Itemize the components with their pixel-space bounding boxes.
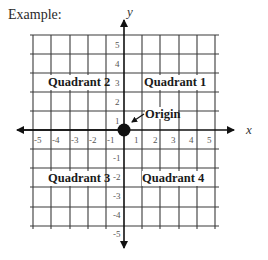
coordinate-plane: x y -5 -4 -3 -2 -1 1 2 3 4 5 5 4 3 2 1 -… [0, 0, 268, 260]
y-axis-label: y [125, 4, 133, 19]
y-tick: -4 [113, 210, 121, 220]
quadrant-4-label: Quadrant 4 [142, 171, 205, 185]
x-tick: 1 [134, 135, 139, 145]
x-tick: 4 [189, 135, 194, 145]
quadrant-3-label: Quadrant 3 [48, 171, 110, 185]
quadrant-2-label: Quadrant 2 [48, 75, 110, 89]
y-tick: -3 [113, 191, 121, 201]
y-tick: 3 [115, 78, 120, 88]
x-tick: -5 [34, 135, 42, 145]
y-tick: 4 [115, 59, 120, 69]
y-tick: 2 [115, 97, 120, 107]
quadrant-1-label: Quadrant 1 [144, 75, 206, 89]
origin-dot [118, 124, 131, 137]
x-tick: -2 [89, 135, 97, 145]
y-tick: 5 [115, 40, 120, 50]
x-tick: -1 [107, 135, 115, 145]
x-tick: 2 [153, 135, 158, 145]
x-axis-label: x [245, 122, 252, 137]
x-tick: -3 [71, 135, 79, 145]
y-tick: -2 [113, 172, 121, 182]
x-tick: -4 [52, 135, 60, 145]
y-tick: -5 [113, 229, 121, 239]
y-tick: -1 [113, 153, 121, 163]
y-tick: 1 [115, 116, 120, 126]
x-tick: 5 [207, 135, 212, 145]
x-tick-labels: -5 -4 -3 -2 -1 1 2 3 4 5 [34, 135, 212, 145]
origin-label: Origin [145, 107, 180, 121]
x-tick: 3 [171, 135, 176, 145]
